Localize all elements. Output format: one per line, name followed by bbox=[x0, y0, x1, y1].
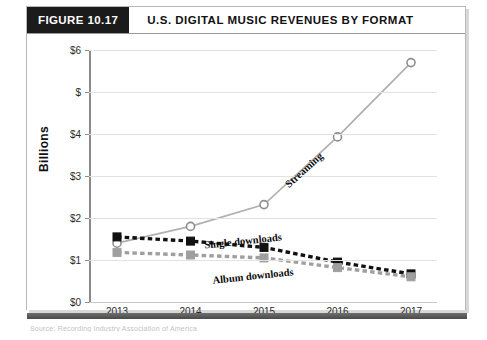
y-axis-tick-label: $6 bbox=[70, 45, 81, 56]
figure-card: FIGURE 10.17 U.S. DIGITAL MUSIC REVENUES… bbox=[26, 6, 466, 310]
gridline bbox=[89, 50, 437, 51]
data-point-marker bbox=[113, 233, 121, 241]
figure-caption: Source: Recording Industry Association o… bbox=[30, 325, 470, 332]
gridline bbox=[89, 134, 437, 135]
data-point-marker bbox=[334, 264, 342, 272]
y-axis-tick-labels: $0$1$2$3$4$$6 bbox=[45, 50, 85, 302]
figure-root: FIGURE 10.17 U.S. DIGITAL MUSIC REVENUES… bbox=[0, 0, 487, 340]
data-point-marker bbox=[407, 59, 415, 67]
data-point-marker bbox=[407, 273, 415, 281]
y-axis-tick bbox=[85, 260, 89, 261]
y-axis-tick-label: $4 bbox=[70, 129, 81, 140]
data-point-marker bbox=[187, 222, 195, 230]
data-point-marker bbox=[260, 201, 268, 209]
y-axis-tick bbox=[85, 302, 89, 303]
gridline bbox=[89, 92, 437, 93]
gridline bbox=[89, 260, 437, 261]
gridline bbox=[89, 218, 437, 219]
data-point-marker bbox=[187, 237, 195, 245]
data-point-marker bbox=[187, 251, 195, 259]
figure-title: U.S. DIGITAL MUSIC REVENUES BY FORMAT bbox=[129, 7, 465, 33]
y-axis-tick bbox=[85, 176, 89, 177]
y-axis-tick bbox=[85, 92, 89, 93]
y-axis-tick bbox=[85, 218, 89, 219]
y-axis-tick bbox=[85, 50, 89, 51]
y-axis-tick-label: $1 bbox=[70, 255, 81, 266]
bottom-rule bbox=[27, 313, 467, 319]
series-line-streaming bbox=[117, 63, 411, 244]
y-axis-tick bbox=[85, 134, 89, 135]
figure-header: FIGURE 10.17 U.S. DIGITAL MUSIC REVENUES… bbox=[27, 7, 465, 34]
chart-body: Billions $0$1$2$3$4$$6 20132014201520162… bbox=[27, 34, 465, 310]
figure-number-badge: FIGURE 10.17 bbox=[27, 7, 129, 33]
y-axis-tick-label: $0 bbox=[70, 297, 81, 308]
gridline bbox=[89, 176, 437, 177]
y-axis-tick-label: $3 bbox=[70, 171, 81, 182]
data-point-marker bbox=[113, 248, 121, 256]
gridline bbox=[89, 302, 437, 303]
y-axis-tick-label: $ bbox=[75, 87, 81, 98]
plot-area: StreamingSingle downloadsAlbum downloads bbox=[89, 50, 437, 302]
y-axis-tick-label: $2 bbox=[70, 213, 81, 224]
